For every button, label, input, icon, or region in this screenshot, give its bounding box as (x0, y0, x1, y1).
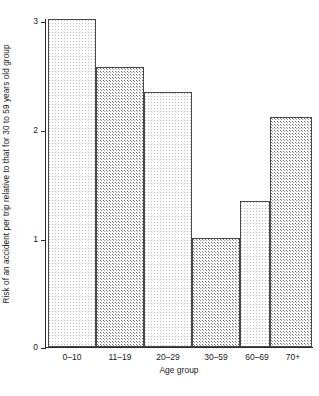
plot-area: 3 2 1 0 0–10 11–19 20–29 30–59 60–69 70+ (45, 14, 313, 350)
y-tick-label-2: 2 (33, 125, 38, 136)
y-axis-line (45, 19, 46, 348)
x-tick-label-70plus: 70+ (273, 352, 313, 363)
x-tick-label-11-19: 11–19 (96, 352, 144, 363)
bar-11-19 (96, 67, 144, 347)
x-axis-title: Age group (45, 365, 313, 376)
x-tick-label-30-59: 30–59 (192, 352, 240, 363)
y-tick-label-1: 1 (33, 234, 38, 245)
bar-chart-figure: Risk of an accident per trip relative to… (0, 0, 319, 396)
x-tick-label-0-10: 0–10 (48, 352, 96, 363)
y-tick-3: 3 (41, 22, 46, 23)
x-axis-line (45, 347, 313, 348)
y-tick-0: 0 (41, 348, 46, 349)
bar-60-69 (240, 201, 270, 347)
x-tick-label-60-69: 60–69 (237, 352, 277, 363)
bar-70plus (270, 117, 312, 347)
bar-20-29 (144, 92, 192, 347)
y-tick-label-3: 3 (33, 16, 38, 27)
y-tick-label-0: 0 (33, 342, 38, 353)
y-axis-title: Risk of an accident per trip relative to… (0, 0, 14, 348)
bar-30-59 (192, 238, 240, 347)
bar-0-10 (48, 19, 96, 347)
y-tick-1: 1 (41, 240, 46, 241)
x-tick-label-20-29: 20–29 (144, 352, 192, 363)
y-tick-2: 2 (41, 131, 46, 132)
